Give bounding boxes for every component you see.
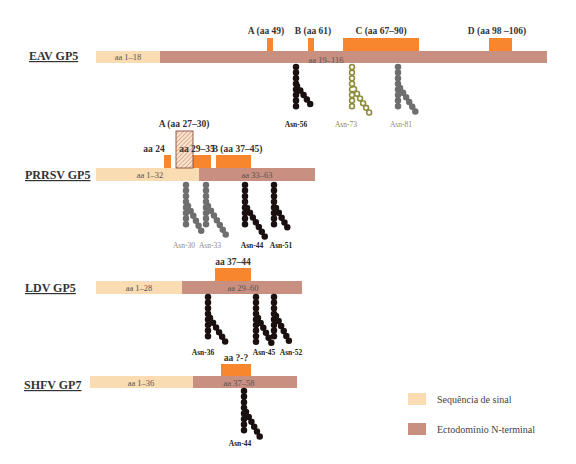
ldv-glycan-asn52-label: Asn-52 xyxy=(280,348,303,357)
shfv-ecto-label: aa 37–58 xyxy=(224,378,255,388)
eav-gp5-title: EAV GP5 xyxy=(29,49,78,63)
glycoprotein-diagram: EAV GP5 aa 1–18 aa 19–116 A (aa 49) B (a… xyxy=(0,0,576,464)
eav-glycan-asn73-label: Asn-73 xyxy=(335,120,357,129)
ldv-signal-label: aa 1–28 xyxy=(126,283,153,293)
eav-glycan-asn56-label: Asn-56 xyxy=(285,120,308,129)
shfv-gp7-title: SHFV GP7 xyxy=(24,378,81,392)
prrsv-glycan-asn30-label: Asn-30 xyxy=(173,241,195,250)
glycan-icon xyxy=(208,297,228,346)
eav-epitope-c-label: C (aa 67–90) xyxy=(355,26,406,37)
glycan-icon xyxy=(206,185,226,235)
ldv-glycan-asn45-label: Asn-45 xyxy=(253,348,276,357)
prrsv-epitope-aa29-35-label: aa 29–35 xyxy=(179,144,215,154)
prrsv-ecto-label: aa 33–63 xyxy=(242,170,273,180)
eav-epitope-b-label: B (aa 61) xyxy=(295,26,331,37)
glycan-icon xyxy=(244,391,260,437)
eav-epitope-a-label: A (aa 49) xyxy=(248,26,284,37)
glycan-icon xyxy=(296,67,313,108)
shfv-gp7-row: SHFV GP7 aa 1–36 aa 37–58 aa ?-? Asn-44 xyxy=(24,353,297,448)
shfv-epitope xyxy=(221,364,251,376)
legend-swatch-signal xyxy=(408,393,426,405)
shfv-epitope-label: aa ?-? xyxy=(224,353,249,363)
legend-label-signal: Sequência de sinal xyxy=(437,394,512,405)
glycan-icon xyxy=(186,185,203,234)
glycan-icon xyxy=(398,67,417,114)
prrsv-glycan-asn33-label: Asn-33 xyxy=(199,241,221,250)
legend-label-ectodomain: Ectodomínio N-terminal xyxy=(437,424,535,435)
glycan-icon xyxy=(245,185,265,237)
prrsv-signal-label: aa 1–32 xyxy=(137,170,164,180)
prrsv-epitope-aa24-label: aa 24 xyxy=(143,144,165,154)
prrsv-epitope-a-label: A (aa 27–30) xyxy=(159,119,210,130)
prrsv-gp5-row: PRRSV GP5 aa 1–32 aa 33–63 A (aa 27–30) … xyxy=(25,119,315,250)
ldv-epitope xyxy=(215,268,251,281)
prrsv-epitope-aa24 xyxy=(164,155,171,168)
eav-epitope-d xyxy=(489,38,512,51)
prrsv-glycan-asn44-label: Asn-44 xyxy=(241,241,264,250)
ldv-gp5-row: LDV GP5 aa 1–28 aa 29–60 aa 37–44 Asn-36… xyxy=(25,257,302,357)
prrsv-epitope-b xyxy=(216,155,251,168)
eav-ectodomain-bar xyxy=(160,51,547,63)
eav-signal-label: aa 1–18 xyxy=(115,52,142,62)
glycan-hollow-icon xyxy=(352,67,372,117)
eav-epitope-d-label: D (aa 98 –106) xyxy=(468,26,526,37)
eav-gp5-row: EAV GP5 aa 1–18 aa 19–116 A (aa 49) B (a… xyxy=(29,26,547,129)
legend: Sequência de sinal Ectodomínio N-termina… xyxy=(408,393,535,435)
ldv-gp5-title: LDV GP5 xyxy=(25,281,76,295)
shfv-signal-label: aa 1–36 xyxy=(128,378,155,388)
prrsv-epitope-b-label: B (aa 37–45) xyxy=(212,144,263,155)
glycan-icon xyxy=(274,185,290,232)
glycan-icon xyxy=(256,297,272,344)
eav-epitope-a xyxy=(267,38,273,51)
ldv-glycan-asn36-label: Asn-36 xyxy=(192,348,215,357)
shfv-glycan-asn44-label: Asn-44 xyxy=(229,439,252,448)
glycan-icon xyxy=(274,297,290,343)
ldv-epitope-label: aa 37–44 xyxy=(215,257,251,267)
legend-swatch-ectodomain xyxy=(408,423,426,435)
prrsv-glycan-asn51-label: Asn-51 xyxy=(270,241,293,250)
prrsv-gp5-title: PRRSV GP5 xyxy=(25,168,90,182)
eav-glycan-asn81-label: Asn-81 xyxy=(390,120,412,129)
eav-epitope-b xyxy=(308,38,314,51)
ldv-ecto-label: aa 29–60 xyxy=(228,283,259,293)
eav-epitope-c xyxy=(343,38,419,51)
eav-ecto-label: aa 19–116 xyxy=(309,55,344,65)
